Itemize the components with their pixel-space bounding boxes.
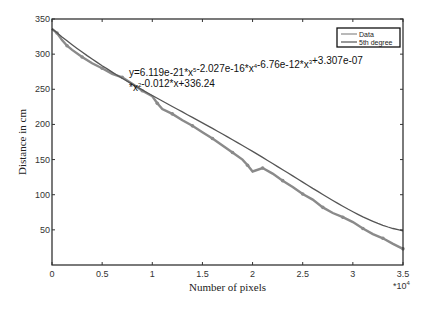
data-point — [281, 179, 285, 183]
data-point — [80, 55, 84, 59]
x-tick-label: 1 — [150, 269, 155, 279]
y-tick-label: 250 — [35, 84, 50, 94]
y-tick-label: 200 — [35, 119, 50, 129]
legend: Data5th degree — [337, 28, 400, 47]
data-point — [381, 236, 385, 240]
x-tick-label: 3.5 — [397, 269, 410, 279]
legend-label: Data — [359, 31, 374, 38]
y-tick-label: 300 — [35, 49, 50, 59]
data-point — [231, 151, 235, 155]
data-point — [211, 137, 215, 141]
data-point — [65, 44, 69, 48]
equation-line-1: y=6.119e-21*x5-2.027e-16*x4-6.76e-12*x3+… — [129, 55, 363, 78]
data-point — [341, 215, 345, 219]
data-point — [156, 102, 160, 106]
data-point — [191, 124, 195, 128]
y-tick-label: 350 — [35, 14, 50, 24]
x-tick-label: 2.5 — [296, 269, 309, 279]
data-point — [321, 206, 325, 210]
data-point — [361, 227, 365, 231]
x-axis-label: Number of pixels — [189, 281, 266, 293]
data-point — [301, 192, 305, 196]
y-axis-label: Distance in cm — [16, 109, 28, 175]
legend-label: 5th degree — [359, 39, 393, 47]
y-tick-label: 50 — [40, 225, 50, 235]
x-tick-label: 1.5 — [196, 269, 209, 279]
x-tick-label: 0.5 — [96, 269, 109, 279]
chart: 00.511.522.533.550100150200250300350 Num… — [0, 0, 427, 310]
data-point — [171, 112, 175, 116]
data-point — [261, 166, 265, 170]
y-tick-label: 150 — [35, 155, 50, 165]
y-tick-label: 100 — [35, 190, 50, 200]
x-tick-label: 0 — [49, 269, 54, 279]
x-multiplier: *104 — [393, 280, 411, 291]
x-tick-label: 2 — [250, 269, 255, 279]
x-tick-label: 3 — [350, 269, 355, 279]
data-point — [246, 163, 250, 167]
